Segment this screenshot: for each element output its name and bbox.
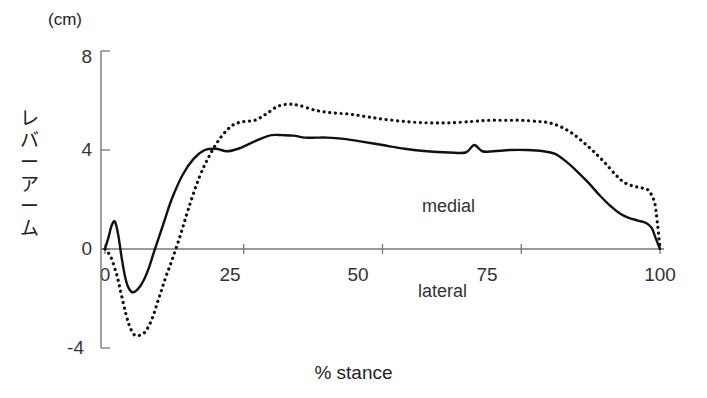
series-dotted-curve <box>105 104 660 336</box>
data-series-layer <box>105 104 660 336</box>
chart-figure: (cm) レ バ ー ア ー ム % stance 8 4 0 -4 0 25 … <box>0 0 707 398</box>
axis-lines <box>101 51 664 348</box>
plot-area <box>0 0 707 398</box>
y-axis-ticks <box>101 51 110 348</box>
series-solid-curve <box>105 135 660 292</box>
